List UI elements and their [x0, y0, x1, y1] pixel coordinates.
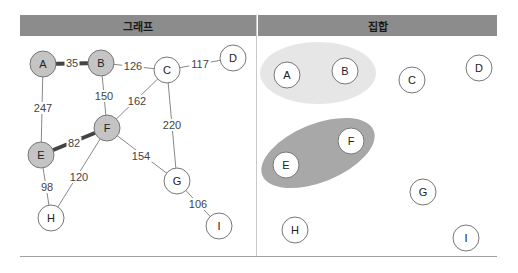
diagram-canvas: 351261172471501622208215498120106ABCDEFG… — [0, 0, 518, 273]
graph-node-label: D — [229, 52, 237, 64]
edge-weight-label: 82 — [68, 137, 80, 149]
edge-weight-label: 220 — [163, 119, 181, 131]
set-node-label: F — [348, 135, 355, 147]
set-node-label: G — [419, 186, 428, 198]
set-node-label: D — [475, 62, 483, 74]
set-group-ef — [252, 104, 385, 203]
edge-weight-label: 154 — [132, 150, 150, 162]
graph-node-label: H — [47, 212, 55, 224]
set-node-label: H — [291, 224, 299, 236]
graph-node-label: I — [217, 220, 220, 232]
edge-weight-label: 162 — [128, 95, 146, 107]
graph-node-label: F — [104, 122, 111, 134]
set-node-label: B — [341, 65, 348, 77]
edge-weight-label: 120 — [70, 171, 88, 183]
graph-panel: 351261172471501622208215498120106ABCDEFG… — [28, 45, 246, 239]
edge-weight-label: 150 — [95, 90, 113, 102]
graph-node-label: B — [97, 57, 104, 69]
edge-weight-label: 117 — [191, 58, 209, 70]
graph-node-label: E — [37, 149, 44, 161]
graph-node-label: A — [39, 58, 47, 70]
edge-weight-label: 126 — [124, 60, 142, 72]
set-panel: ABCDEFGHI — [252, 42, 492, 251]
edge-weight-label: 35 — [66, 57, 78, 69]
edge-weight-label: 247 — [34, 102, 52, 114]
edge-weight-label: 106 — [189, 198, 207, 210]
set-node-label: I — [464, 232, 467, 244]
set-node-label: E — [282, 159, 289, 171]
graph-node-label: C — [163, 64, 171, 76]
set-node-label: C — [408, 74, 416, 86]
graph-node-label: G — [173, 175, 182, 187]
edge-weight-label: 98 — [41, 181, 53, 193]
set-node-label: A — [283, 69, 291, 81]
